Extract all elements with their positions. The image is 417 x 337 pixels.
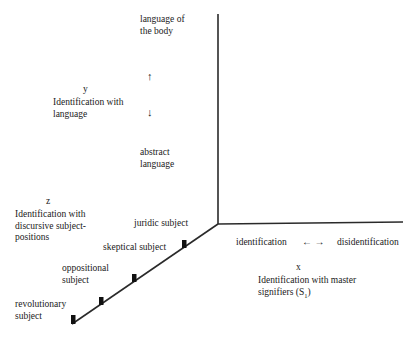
x-title-close: ) <box>307 287 310 297</box>
down-arrow-icon: ↓ <box>147 107 153 119</box>
oppositional-line1: oppositional <box>62 263 109 275</box>
x-title-line1: Identification with master <box>258 275 356 287</box>
revolutionary-line1: revolutionary <box>15 299 66 311</box>
y-top-label: language of the body <box>140 14 185 37</box>
x-axis-line <box>218 222 403 224</box>
x-title-line2: signifiers (S1) <box>258 287 356 301</box>
x-title-text: signifiers (S <box>258 287 304 297</box>
revolutionary-subject-label: revolutionary subject <box>15 299 66 322</box>
y-axis-title: Identification with language <box>53 97 123 120</box>
z-axis-letter: z <box>46 196 50 208</box>
tick-skeptical <box>132 274 137 282</box>
x-left-label: identification <box>236 237 287 249</box>
x-axis-title: Identification with master signifiers (S… <box>258 275 356 301</box>
x-axis-letter: x <box>296 262 301 274</box>
z-axis-title: Identification with discursive subject- … <box>15 209 86 244</box>
tick-oppositional <box>99 297 104 305</box>
y-bottom-label: abstract language <box>140 147 174 170</box>
z-title-line3: positions <box>15 232 86 244</box>
oppositional-subject-label: oppositional subject <box>62 263 109 286</box>
tick-juridic <box>182 240 187 248</box>
revolutionary-line2: subject <box>15 311 66 323</box>
tick-revolutionary <box>71 315 76 324</box>
y-bottom-line2: language <box>140 159 174 171</box>
y-title-line2: language <box>53 109 123 121</box>
oppositional-line2: subject <box>62 275 109 287</box>
z-title-line1: Identification with <box>15 209 86 221</box>
y-bottom-line1: abstract <box>140 147 174 159</box>
y-axis-letter: y <box>83 84 88 96</box>
juridic-subject-label: juridic subject <box>134 218 188 230</box>
up-arrow-icon: ↑ <box>147 71 153 83</box>
y-title-line1: Identification with <box>53 97 123 109</box>
skeptical-subject-label: skeptical subject <box>103 242 166 254</box>
z-title-line2: discursive subject- <box>15 221 86 233</box>
x-right-label: disidentification <box>337 237 399 249</box>
y-top-line2: the body <box>140 26 185 38</box>
y-top-line1: language of <box>140 14 185 26</box>
left-right-arrows-icon: ← → <box>302 236 325 248</box>
